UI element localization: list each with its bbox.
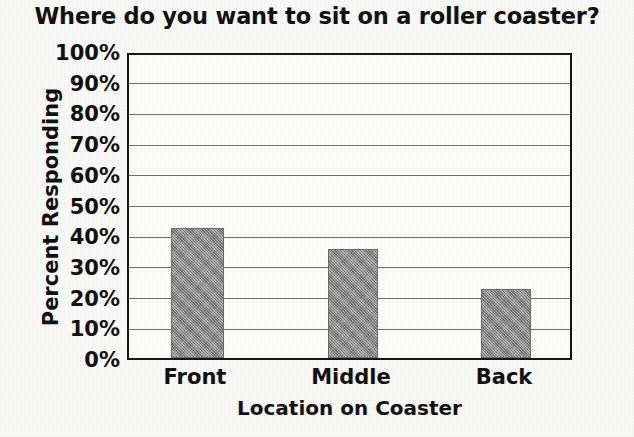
- gridline-90: [129, 83, 570, 84]
- gridline-60: [129, 175, 570, 176]
- gridline-70: [129, 145, 570, 146]
- bar-chart: Where do you want to sit on a roller coa…: [0, 0, 634, 437]
- y-tick-label-0: 0%: [36, 350, 120, 371]
- plot-area: [127, 53, 572, 360]
- y-tick-label-50: 50%: [36, 196, 120, 217]
- y-tick-label-60: 60%: [36, 165, 120, 186]
- y-tick-label-40: 40%: [36, 227, 120, 248]
- gridline-50: [129, 206, 570, 207]
- x-tick-label-front: Front: [164, 365, 227, 389]
- bar-middle: [328, 249, 378, 358]
- x-axis-title: Location on Coaster: [127, 396, 572, 420]
- y-tick-label-100: 100%: [36, 43, 120, 64]
- bar-front: [171, 228, 224, 358]
- x-tick-label-back: Back: [476, 365, 533, 389]
- y-tick-label-10: 10%: [36, 319, 120, 340]
- y-tick-label-90: 90%: [36, 73, 120, 94]
- y-tick-label-20: 20%: [36, 288, 120, 309]
- bar-back: [481, 289, 531, 358]
- y-tick-label-70: 70%: [36, 135, 120, 156]
- y-tick-label-30: 30%: [36, 257, 120, 278]
- x-tick-label-middle: Middle: [311, 365, 391, 389]
- y-axis-tick-labels: 100% 90% 80% 70% 60% 50% 40% 30% 20% 10%…: [36, 0, 120, 437]
- gridline-80: [129, 114, 570, 115]
- y-tick-label-80: 80%: [36, 104, 120, 125]
